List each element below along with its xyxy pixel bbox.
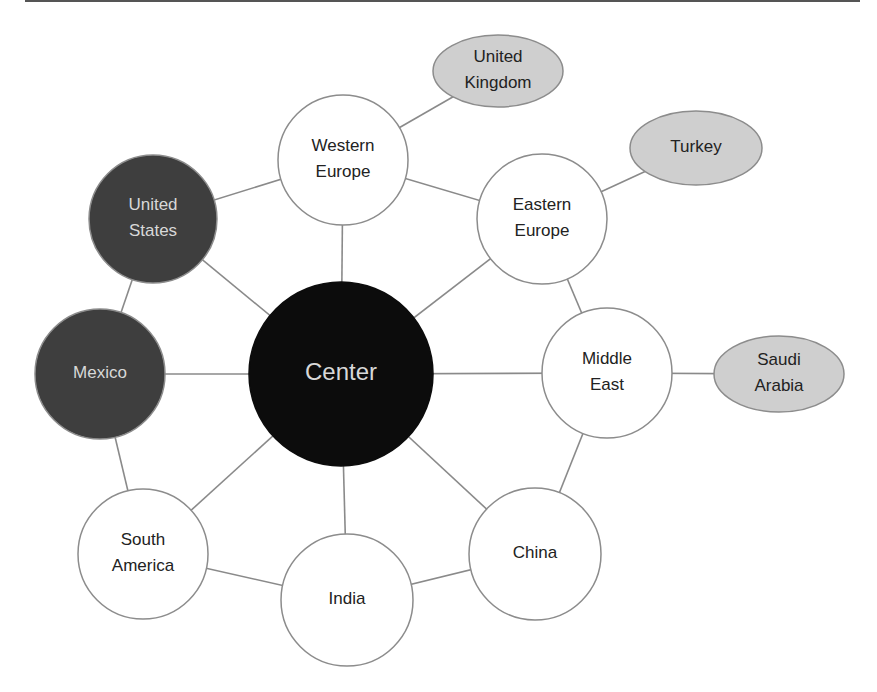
node-united-states: UnitedStates [89,155,217,283]
node-united-kingdom: UnitedKingdom [433,35,563,107]
node-eastern-europe-shape [477,154,607,284]
node-south-america-label: America [112,556,175,575]
node-china-label: China [513,543,558,562]
node-eastern-europe: EasternEurope [477,154,607,284]
node-saudi-arabia-shape [714,336,844,412]
node-turkey: Turkey [630,111,762,185]
node-middle-east-shape [542,308,672,438]
nodes-layer: CenterUnitedStatesMexicoWesternEuropeEas… [35,35,844,666]
node-united-states-shape [89,155,217,283]
node-mexico: Mexico [35,309,165,439]
node-turkey-label: Turkey [670,137,722,156]
node-western-europe-shape [278,95,408,225]
node-western-europe-label: Europe [316,162,371,181]
node-middle-east-label: East [590,375,624,394]
node-united-states-label: United [128,195,177,214]
node-eastern-europe-label: Eastern [513,195,572,214]
node-middle-east: MiddleEast [542,308,672,438]
node-eastern-europe-label: Europe [515,221,570,240]
node-mexico-label: Mexico [73,363,127,382]
node-middle-east-label: Middle [582,349,632,368]
hub-diagram: CenterUnitedStatesMexicoWesternEuropeEas… [0,0,877,692]
node-south-america-shape [78,489,208,619]
node-western-europe: WesternEurope [278,95,408,225]
node-united-kingdom-label: United [473,47,522,66]
node-china: China [469,488,601,620]
node-south-america: SouthAmerica [78,489,208,619]
node-united-kingdom-shape [433,35,563,107]
node-center-label: Center [305,358,377,385]
node-western-europe-label: Western [312,136,375,155]
node-saudi-arabia: SaudiArabia [714,336,844,412]
node-saudi-arabia-label: Arabia [754,376,804,395]
node-united-states-label: States [129,221,177,240]
node-south-america-label: South [121,530,165,549]
node-united-kingdom-label: Kingdom [464,73,531,92]
node-saudi-arabia-label: Saudi [757,350,800,369]
node-india-label: India [329,589,366,608]
node-center: Center [249,282,433,466]
node-india: India [281,534,413,666]
